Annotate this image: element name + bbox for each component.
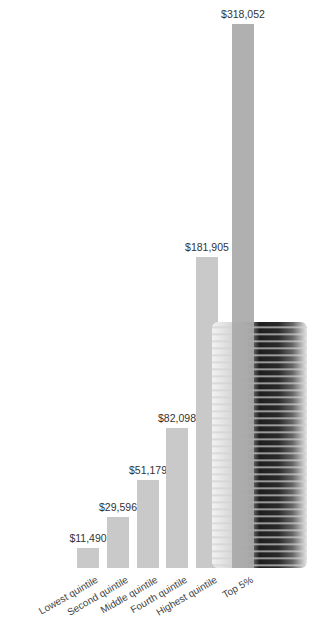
bar-2	[137, 480, 159, 568]
bar-1	[107, 517, 129, 568]
coin-stack-image	[212, 322, 307, 568]
bar-5	[232, 24, 254, 568]
bar-3	[166, 428, 188, 568]
category-label: Top 5%	[220, 574, 254, 600]
value-label: $318,052	[208, 8, 278, 20]
bar-0	[77, 548, 99, 568]
